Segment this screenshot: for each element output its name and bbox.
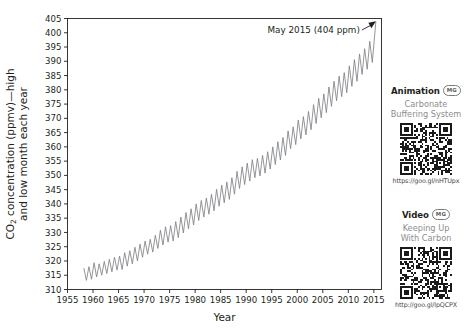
- x-axis-tick-label: 1985: [210, 295, 232, 305]
- y-axis-tick-label: 330: [45, 228, 61, 238]
- y-axis-tick-label: 375: [45, 99, 61, 109]
- media-kind-label: Animation: [391, 86, 440, 96]
- y-axis-tick-label: 365: [45, 128, 61, 138]
- media-card-animation[interactable]: Animation MG Carbonate Buffering System …: [386, 84, 466, 185]
- media-card-animation-header: Animation MG: [386, 84, 466, 97]
- x-axis-tick-label: 1955: [57, 295, 79, 305]
- media-title-line-2: Buffering System: [386, 109, 466, 119]
- y-axis-tick-label: 355: [45, 156, 61, 166]
- media-title-line-1: Keeping Up: [386, 223, 466, 233]
- mastering-geology-badge-icon: MG: [443, 85, 461, 96]
- co2-chart-figure: 3103153203253303353403453503553603653703…: [0, 0, 386, 331]
- media-card-video-title: Keeping Up With Carbon: [386, 223, 466, 244]
- media-card-video-header: Video MG: [386, 208, 466, 221]
- qr-code-video[interactable]: [400, 247, 452, 299]
- media-card-animation-title: Carbonate Buffering System: [386, 99, 466, 120]
- y-axis-tick-label: 390: [45, 56, 61, 66]
- y-axis-tick-label: 395: [45, 42, 61, 52]
- x-axis-tick-label: 1960: [82, 295, 104, 305]
- x-axis-tick-label: 1965: [108, 295, 130, 305]
- co2-chart-svg: 3103153203253303353403453503553603653703…: [0, 0, 386, 331]
- y-axis-tick-label: 385: [45, 71, 61, 81]
- x-axis-tick-label: 2010: [337, 295, 359, 305]
- media-title-line-1: Carbonate: [386, 99, 466, 109]
- y-axis-tick-label: 325: [45, 242, 61, 252]
- x-axis-tick-label: 2000: [286, 295, 308, 305]
- y-axis-tick-label: 405: [45, 14, 61, 24]
- x-axis-tick-label: 1975: [159, 295, 181, 305]
- annotation-label: May 2015 (404 ppm): [268, 25, 360, 35]
- y-axis-tick-label: 350: [45, 170, 61, 180]
- y-axis-tick-label: 320: [45, 256, 61, 266]
- x-axis-tick-label: 2015: [363, 295, 385, 305]
- x-axis-title: Year: [212, 311, 236, 323]
- mastering-geology-badge-icon: MG: [432, 209, 450, 220]
- media-title-line-2: With Carbon: [386, 233, 466, 243]
- y-axis-tick-label: 315: [45, 270, 61, 280]
- y-axis-tick-label: 400: [45, 28, 61, 38]
- y-axis-tick-label: 340: [45, 199, 61, 209]
- media-sidebar: Animation MG Carbonate Buffering System …: [386, 0, 466, 331]
- plot-frame: [68, 19, 382, 290]
- media-card-video[interactable]: Video MG Keeping Up With Carbon http://g…: [386, 208, 466, 309]
- co2-data-line: [84, 21, 376, 280]
- media-url-video[interactable]: http://goo.gl/lpQCPX: [386, 301, 466, 309]
- y-axis-tick-label: 370: [45, 113, 61, 123]
- y-axis-tick-label: 310: [45, 285, 61, 295]
- y-axis-tick-label: 345: [45, 185, 61, 195]
- y-axis-tick-label: 360: [45, 142, 61, 152]
- x-axis-tick-label: 2005: [312, 295, 334, 305]
- media-kind-label: Video: [402, 210, 429, 220]
- y-axis-title-line-2: and low month each year: [17, 86, 29, 221]
- y-axis-tick-label: 335: [45, 213, 61, 223]
- x-axis-tick-label: 1995: [261, 295, 283, 305]
- y-axis-tick-label: 380: [45, 85, 61, 95]
- qr-code-animation[interactable]: [400, 123, 452, 175]
- x-axis-tick-label: 1990: [235, 295, 257, 305]
- x-axis-tick-label: 1980: [184, 295, 206, 305]
- media-url-animation[interactable]: https://goo.gl/nHTUpx: [386, 177, 466, 185]
- x-axis-tick-label: 1970: [133, 295, 155, 305]
- annotation-arrowhead-icon: [368, 21, 376, 28]
